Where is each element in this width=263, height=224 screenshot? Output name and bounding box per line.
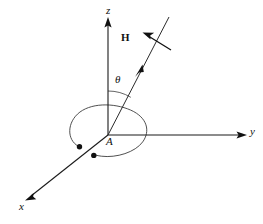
axis-label-y: y	[250, 126, 255, 137]
field-label-pointer	[143, 32, 172, 50]
axis-x	[25, 135, 108, 201]
axis-x-arrowhead	[25, 193, 36, 201]
axis-label-z: z	[106, 5, 110, 16]
field-label-h: H	[121, 32, 130, 43]
figure-canvas	[0, 0, 263, 224]
physics-figure: z y x A θ H	[0, 0, 263, 224]
theta-arc-path	[108, 91, 131, 97]
origin-label-a: A	[106, 136, 113, 147]
field-pointer-line	[148, 36, 172, 51]
angle-label-theta: θ	[115, 74, 120, 85]
terminal-dot-upper	[77, 144, 82, 149]
theta-arc	[108, 91, 131, 97]
axis-x-line	[31, 135, 108, 196]
axis-label-x: x	[19, 201, 24, 212]
axis-y	[108, 131, 247, 138]
terminal-dot-lower	[91, 153, 96, 158]
axis-z	[104, 17, 111, 135]
